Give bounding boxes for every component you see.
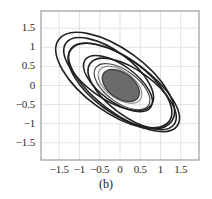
figure-caption: (b): [0, 177, 212, 192]
y-tick-label-0: 1.5: [9, 21, 35, 33]
x-tick-label-6: 1.5: [166, 163, 196, 175]
y-tick-label-4: −0.5: [9, 98, 35, 110]
y-tick-label-3: 0: [9, 79, 35, 91]
figure-panel-b: 1.510.50−0.5−1−1.5 −1.5−1−0.500.511.5 (b…: [0, 0, 212, 199]
y-tick-label-2: 0.5: [9, 59, 35, 71]
y-tick-label-5: −1: [9, 117, 35, 129]
y-tick-label-1: 1: [9, 40, 35, 52]
y-tick-label-6: −1.5: [9, 136, 35, 148]
